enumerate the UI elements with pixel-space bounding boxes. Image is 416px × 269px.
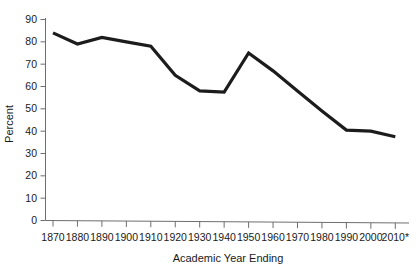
y-tick-label: 40 [25,125,37,137]
x-axis-title: Academic Year Ending [173,252,284,264]
y-tick-label: 20 [25,169,37,181]
y-tick-label: 60 [25,80,37,92]
x-tick-label: 1970 [286,231,310,243]
x-tick-label: 1950 [237,231,261,243]
y-tick-label: 90 [25,13,37,25]
x-tick-label: 2010* [382,231,409,243]
chart-background [0,0,416,269]
line-chart: 0102030405060708090 18701880189019001910… [0,0,416,269]
x-tick-label: 1910 [139,231,163,243]
x-tick-label: 1930 [188,231,212,243]
x-axis-tick-labels: 1870188018901900191019201930194019501960… [41,231,409,243]
x-tick-label: 1920 [164,231,188,243]
y-tick-label: 80 [25,35,37,47]
y-tick-label: 50 [25,102,37,114]
x-tick-label: 1980 [310,231,334,243]
y-tick-label: 10 [25,192,37,204]
x-tick-label: 1960 [261,231,285,243]
x-tick-label: 1900 [115,231,139,243]
x-tick-label: 1990 [335,231,359,243]
x-tick-label: 1890 [90,231,114,243]
y-axis-title: Percent [3,105,15,143]
x-tick-label: 1940 [212,231,236,243]
x-tick-label: 1870 [41,231,65,243]
chart-figure: 0102030405060708090 18701880189019001910… [0,0,416,269]
y-tick-label: 30 [25,147,37,159]
y-tick-label: 0 [31,214,37,226]
y-tick-label: 70 [25,58,37,70]
x-tick-label: 1880 [66,231,90,243]
x-tick-label: 2000 [359,231,383,243]
